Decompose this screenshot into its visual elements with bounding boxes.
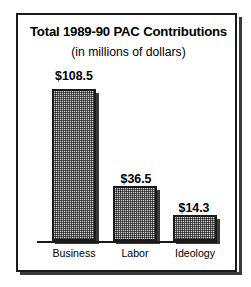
bar-labor[interactable] [113, 186, 157, 241]
bar-shadow [96, 93, 99, 244]
bar-shadow [157, 190, 160, 244]
bar-business[interactable] [52, 89, 96, 241]
bar-ideology[interactable] [173, 215, 217, 241]
bar-value-label: $108.5 [32, 69, 116, 83]
plot-area: $108.5 Business $36.5 Labor $14.3 Ideolo… [18, 15, 239, 274]
axis-baseline [37, 241, 217, 243]
bar-value-label: $36.5 [94, 172, 178, 186]
frame-drop-shadow-right [239, 17, 242, 275]
bar-category-label: Ideology [153, 247, 237, 259]
bar-value-label: $14.3 [152, 201, 236, 215]
chart-frame: Total 1989-90 PAC Contributions (in mill… [16, 13, 237, 272]
